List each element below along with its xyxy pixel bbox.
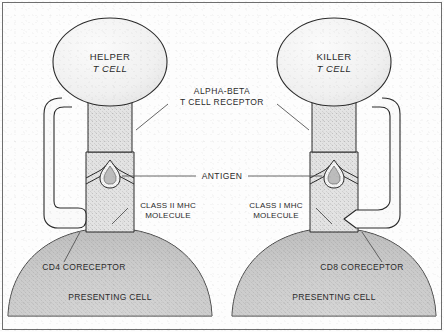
killer-t-cell	[277, 18, 391, 106]
leader-tcr-right	[277, 104, 309, 130]
presenting-cell-label-right: PRESENTING CELL	[292, 292, 375, 302]
tcell-mhc-diagram: HELPER T CELL KILLER T CELL ALPHA-BETA T…	[0, 0, 444, 332]
helper-t-cell	[53, 18, 167, 106]
presenting-cell-left	[8, 228, 212, 316]
cd4-coreceptor	[44, 98, 86, 228]
mhc-class-2-label-line2: MOLECULE	[145, 211, 191, 220]
helper-cell-label-line2: T CELL	[93, 63, 128, 74]
killer-cell-label-line2: T CELL	[317, 63, 352, 74]
killer-cell-label-line1: KILLER	[316, 51, 351, 62]
helper-cell-label-line1: HELPER	[90, 51, 130, 62]
cd8-coreceptor-label: CD8 CORECEPTOR	[320, 262, 403, 272]
antigen-label: ANTIGEN	[202, 171, 243, 181]
cd4-coreceptor-label: CD4 CORECEPTOR	[42, 262, 125, 272]
presenting-cell-label-left: PRESENTING CELL	[68, 292, 151, 302]
tcr-label-line1: ALPHA-BETA	[194, 86, 250, 96]
leader-tcr-left	[136, 104, 168, 130]
diagram-canvas: HELPER T CELL KILLER T CELL ALPHA-BETA T…	[0, 0, 444, 332]
mhc-class-1-label-line2: MOLECULE	[253, 211, 299, 220]
mhc-class-1-label-line1: CLASS I MHC	[249, 201, 302, 210]
presenting-cell-right	[232, 228, 436, 316]
mhc-class-2-label-line1: CLASS II MHC	[140, 201, 196, 210]
tcr-label-line2: T CELL RECEPTOR	[180, 97, 264, 107]
